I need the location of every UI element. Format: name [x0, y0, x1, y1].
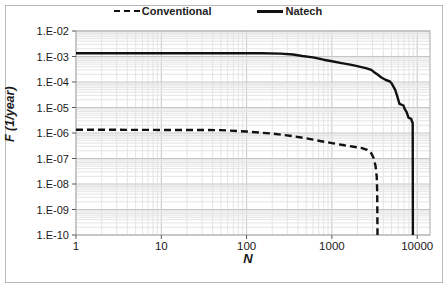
legend-label-natech: Natech — [285, 5, 322, 17]
y-tick-label: 1.E-04 — [37, 76, 69, 88]
y-tick-label: 1.E-08 — [37, 178, 69, 190]
legend-label-conventional: Conventional — [142, 5, 212, 17]
y-tick-label: 1.E-09 — [37, 204, 69, 216]
legend-item-conventional: Conventional — [114, 5, 212, 17]
y-tick-label: 1.E-06 — [37, 127, 69, 139]
chart-legend: Conventional Natech — [0, 5, 436, 17]
solid-line-icon — [257, 10, 283, 13]
x-axis-title: N — [71, 251, 425, 266]
y-tick-label: 1.E-02 — [37, 25, 69, 37]
y-tick-label: 1.E-07 — [37, 153, 69, 165]
series-natech-line — [76, 53, 413, 235]
y-tick-label: 1.E-10 — [37, 229, 69, 241]
dashed-line-icon — [114, 10, 140, 12]
y-axis-title: F (1/year) — [3, 128, 17, 142]
legend-item-natech: Natech — [257, 5, 322, 17]
y-tick-label: 1.E-05 — [37, 102, 69, 114]
fn-curve-plot: 1101001000100001.E-021.E-031.E-041.E-051… — [0, 0, 448, 288]
y-tick-label: 1.E-03 — [37, 51, 69, 63]
